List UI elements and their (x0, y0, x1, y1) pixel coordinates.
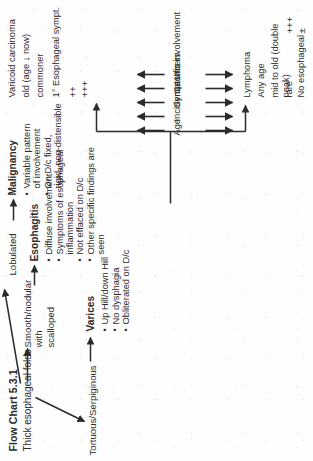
root-node-label: Thick esophageal folds (21, 349, 33, 451)
comparison-left-ulcers-pm: ± (295, 28, 306, 33)
comparison-left-gastric-involvement: No esophageal (295, 34, 306, 97)
list-item: Not effaced on D/c (74, 133, 84, 261)
rotated-figure-container: Flow Chart 5.3.1 Thick esophageal folds … (0, 0, 313, 461)
branch-morphology-malignancy: Lobulated (6, 233, 17, 275)
comparison-left-incidence: rare (283, 80, 294, 97)
comparison-criterion-ulcers: Ulcers (171, 53, 181, 79)
comparison-right-symptoms: 1° Esophageal sympt. (50, 6, 61, 97)
figure-title: Flow Chart 5.3.1 (6, 369, 18, 451)
comparison-left-age-1: Any age (255, 63, 266, 97)
comparison-left-ulcers-plus: +++ (283, 16, 294, 33)
comparison-right-age: old (age ↓ now) (20, 33, 31, 97)
flow-chart: Flow Chart 5.3.1 Thick esophageal folds … (0, 0, 313, 461)
branch-morphology-varices: Tortuous/Serpiginous (86, 359, 97, 455)
list-item: No dysphagia (110, 227, 120, 331)
branch-heading-varices: Varices (84, 295, 96, 331)
branch-morphology-esophagitis: Smooth/nodular with scalloped (21, 281, 55, 347)
comparison-right-gastric-involvement: ++ (66, 86, 77, 97)
comparison-left-title: Lymphoma (241, 51, 252, 97)
branch-heading-malignancy: Malignancy (6, 140, 18, 195)
comparison-right-title: Varicoid carcinoma (6, 19, 17, 97)
list-item: Obliterated on D/c (120, 227, 130, 331)
comparison-right-incidence: commoner (34, 53, 45, 97)
list-item: Other specific findings are seen (85, 133, 105, 261)
branch-heading-esophagitis: Esophagitis (28, 203, 40, 261)
comparison-right-ulcers: +++ (78, 80, 89, 97)
figure-page: Flow Chart 5.3.1 Thick esophageal folds … (0, 0, 313, 461)
